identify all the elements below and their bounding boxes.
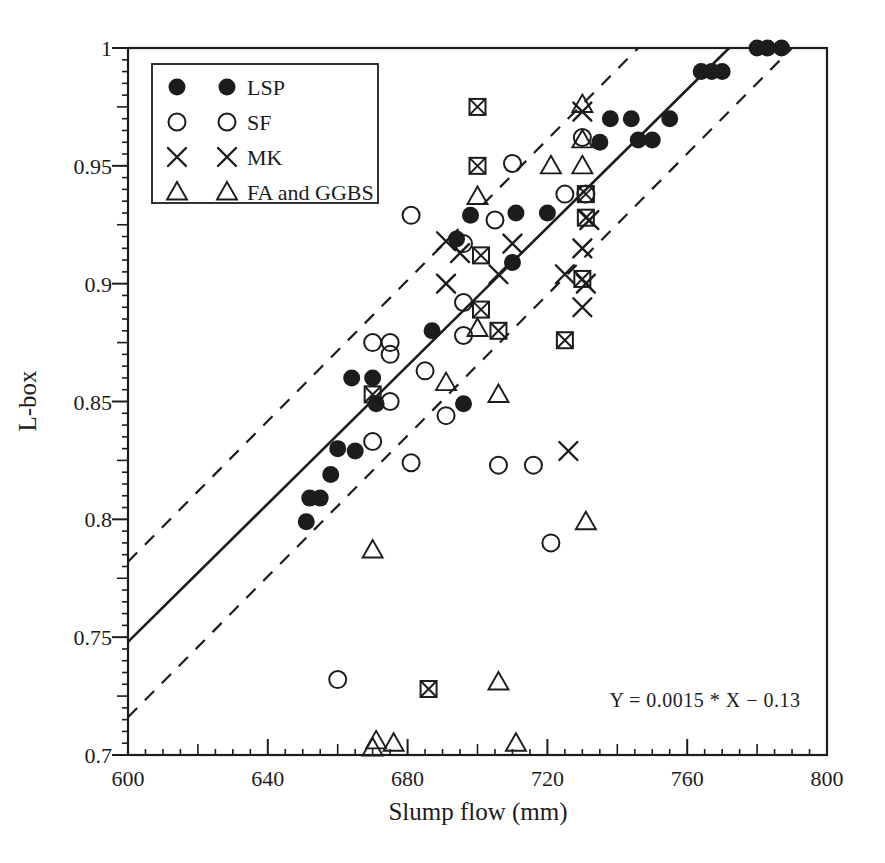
data-point-sf	[438, 407, 455, 424]
legend-item-lsp: LSP	[169, 75, 285, 100]
series-lsp	[298, 40, 790, 531]
data-point-fa-and-ggbs	[506, 733, 526, 751]
legend-label-fa-ggbs: FA and GGBS	[247, 180, 374, 205]
y-tick-label: 0.8	[85, 507, 113, 532]
data-point-lsp	[661, 110, 678, 127]
data-point-lsp	[644, 131, 661, 148]
data-point-mk-overlapped-boxed-x	[574, 271, 590, 287]
trend-lines	[128, 48, 792, 717]
y-tick-label: 0.9	[85, 272, 113, 297]
triangle-icon	[167, 182, 187, 200]
y-axis-title: L-box	[14, 370, 41, 432]
data-point-fa-and-ggbs	[363, 540, 383, 558]
data-point-lsp	[312, 490, 329, 507]
x-axis-title: Slump flow (mm)	[388, 798, 567, 826]
data-point-fa-and-ggbs	[488, 384, 508, 402]
data-point-fa-and-ggbs	[468, 318, 488, 336]
data-point-mk	[573, 239, 591, 257]
legend-label-mk: MK	[247, 145, 283, 170]
series-fa-and-ggbs	[363, 95, 596, 756]
data-point-lsp	[424, 322, 441, 339]
x-marker-icon	[168, 148, 236, 166]
y-tick-label: 0.75	[74, 625, 113, 650]
equation-label: Y = 0.0015 * X − 0.13	[609, 689, 800, 711]
data-point-mk	[573, 298, 591, 316]
x-tick-label: 760	[671, 766, 704, 791]
data-point-sf	[525, 457, 542, 474]
data-point-lsp	[539, 204, 556, 221]
x-icon	[218, 148, 236, 166]
data-point-mk-overlapped-boxed-x	[490, 323, 506, 339]
open-circle-icon	[219, 114, 236, 131]
lower-band	[128, 48, 792, 717]
data-point-sf	[329, 671, 346, 688]
data-point-fa-and-ggbs	[436, 373, 456, 391]
data-point-lsp	[504, 254, 521, 271]
x-tick-label: 640	[251, 766, 284, 791]
axis-ticks: 60064068072076080010.950.90.850.80.750.7	[74, 36, 844, 791]
data-point-sf	[455, 294, 472, 311]
legend-item-fa-ggbs: FA and GGBS	[167, 180, 374, 205]
filled-circle-icon	[219, 79, 236, 96]
x-tick-label: 680	[391, 766, 424, 791]
data-point-sf	[504, 155, 521, 172]
data-point-mk	[489, 265, 507, 283]
data-point-lsp	[298, 513, 315, 530]
data-point-sf	[490, 457, 507, 474]
upper-band	[128, 48, 638, 562]
legend-label-lsp: LSP	[247, 75, 285, 100]
data-point-lsp	[322, 466, 339, 483]
data-point-mk-overlapped-boxed-x	[421, 681, 437, 697]
data-point-mk	[503, 235, 521, 253]
data-points	[298, 40, 790, 756]
data-point-lsp	[462, 207, 479, 224]
y-tick-label: 1	[101, 36, 112, 61]
legend-label-sf: SF	[247, 110, 271, 135]
legend: LSP SF MK FA and GGBS	[152, 64, 378, 205]
data-point-lsp	[364, 369, 381, 386]
y-tick-label: 0.7	[85, 743, 113, 768]
data-point-lsp	[329, 440, 346, 457]
data-point-lsp	[602, 110, 619, 127]
data-point-mk	[451, 244, 469, 262]
data-point-mk	[559, 442, 577, 460]
data-point-mk	[556, 265, 574, 283]
filled-circle-icon	[169, 79, 186, 96]
triangle-icon	[217, 182, 237, 200]
data-point-sf	[364, 334, 381, 351]
figure: 60064068072076080010.950.90.850.80.750.7…	[0, 0, 885, 863]
data-point-lsp	[347, 442, 364, 459]
open-circle-icon	[169, 114, 186, 131]
data-point-mk-overlapped-boxed-x	[470, 99, 486, 115]
data-point-mk-overlapped-boxed-x	[473, 302, 489, 318]
data-point-mk-overlapped-boxed-x	[557, 332, 573, 348]
data-point-sf	[364, 433, 381, 450]
data-point-fa-and-ggbs	[576, 512, 596, 530]
x-tick-label: 600	[112, 766, 145, 791]
data-point-fa-and-ggbs	[541, 156, 561, 174]
data-point-mk	[437, 275, 455, 293]
x-tick-label: 720	[531, 766, 564, 791]
y-tick-label: 0.95	[74, 154, 113, 179]
data-point-sf	[403, 207, 420, 224]
scatter-plot: 60064068072076080010.950.90.850.80.750.7…	[0, 0, 885, 863]
x-tick-label: 800	[811, 766, 844, 791]
data-point-lsp	[455, 395, 472, 412]
filled-circle-icon	[169, 79, 236, 96]
data-point-sf	[382, 346, 399, 363]
open-circle-icon	[169, 114, 236, 131]
data-point-sf	[403, 454, 420, 471]
data-point-mk-overlapped-boxed-x	[473, 247, 489, 263]
legend-item-mk: MK	[168, 145, 283, 170]
plot-frame-rect	[128, 48, 827, 755]
triangle-icon	[167, 182, 237, 200]
data-point-sf	[542, 534, 559, 551]
data-point-mk-overlapped-boxed-x	[470, 158, 486, 174]
data-point-lsp	[507, 204, 524, 221]
data-point-fa-and-ggbs	[572, 156, 592, 174]
data-point-sf	[417, 362, 434, 379]
data-point-lsp	[623, 110, 640, 127]
plot-frame	[128, 48, 827, 755]
data-point-lsp	[343, 369, 360, 386]
data-point-sf	[486, 212, 503, 229]
